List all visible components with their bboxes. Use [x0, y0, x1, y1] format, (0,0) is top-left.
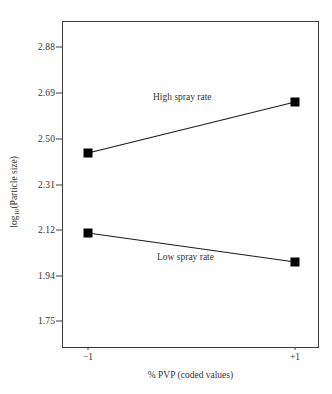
y-tick-label: 2.69 [38, 88, 55, 98]
x-tick-label: +1 [275, 352, 315, 363]
y-tick-label: 2.50 [38, 134, 55, 144]
y-tick-label: 2.88 [38, 42, 55, 52]
x-axis-title: % PVP (coded values) [62, 370, 319, 381]
y-tick-label: 2.12 [38, 225, 55, 235]
x-tick-label: −1 [68, 352, 108, 363]
x-axis-tick-marks [88, 348, 295, 350]
plot-frame [62, 21, 319, 348]
y-axis-title-base: log [9, 216, 19, 228]
y-axis-title-rest: (Particle size) [9, 156, 19, 209]
series-annotation-high-spray-rate: High spray rate [153, 92, 212, 103]
y-axis-title: log10(Particle size) [9, 127, 23, 257]
y-tick-label: 1.94 [38, 271, 55, 281]
interaction-plot-figure: 2.88 2.69 2.50 2.31 2.12 1.94 1.75 log10… [0, 0, 332, 394]
series-annotation-low-spray-rate: Low spray rate [157, 252, 214, 263]
y-tick-label: 1.75 [38, 316, 55, 326]
y-axis-title-subscript: 10 [13, 209, 21, 216]
y-tick-label: 2.31 [38, 180, 55, 190]
